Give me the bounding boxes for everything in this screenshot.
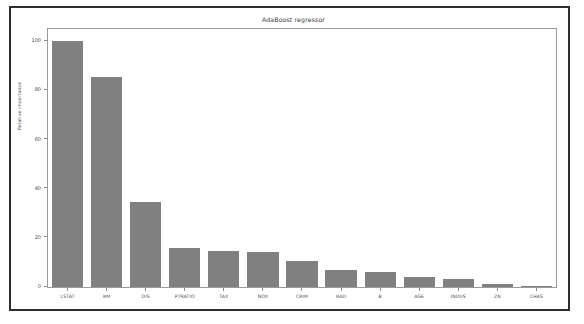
bar-slot [126, 29, 165, 287]
x-tick-RAD: RAD [322, 288, 361, 299]
x-tick-mark [184, 288, 185, 291]
y-axis-ticks: 020406080100 [0, 28, 47, 288]
bar-slot [439, 29, 478, 287]
x-tick-ZN: ZN [478, 288, 517, 299]
y-tick-label: 20 [35, 234, 44, 240]
x-tick-label: CRIM [282, 294, 321, 299]
x-tick-mark [67, 288, 68, 291]
bar-slot [517, 29, 556, 287]
x-tick-label: RM [87, 294, 126, 299]
x-tick-DIS: DIS [126, 288, 165, 299]
bar[interactable] [169, 248, 200, 287]
bar[interactable] [482, 284, 513, 287]
x-tick-mark [301, 288, 302, 291]
x-tick-INDUS: INDUS [439, 288, 478, 299]
x-tick-label: B [361, 294, 400, 299]
x-tick-mark [536, 288, 537, 291]
figure-window: AdaBoost regressor Relative importance 0… [0, 0, 584, 324]
bar-slot [204, 29, 243, 287]
x-tick-AGE: AGE [400, 288, 439, 299]
bar-slot [400, 29, 439, 287]
x-tick-label: LSTAT [48, 294, 87, 299]
x-tick-LSTAT: LSTAT [48, 288, 87, 299]
bar[interactable] [443, 279, 474, 287]
bars-layer [48, 29, 556, 287]
x-tick-RM: RM [87, 288, 126, 299]
bar[interactable] [521, 286, 552, 287]
bar[interactable] [404, 277, 435, 287]
x-tick-label: PTRATIO [165, 294, 204, 299]
x-tick-label: TAX [204, 294, 243, 299]
x-tick-CHAS: CHAS [517, 288, 556, 299]
bar[interactable] [208, 251, 239, 287]
x-tick-label: NOX [243, 294, 282, 299]
bar[interactable] [286, 261, 317, 287]
x-tick-mark [145, 288, 146, 291]
bar[interactable] [325, 270, 356, 287]
x-tick-PTRATIO: PTRATIO [165, 288, 204, 299]
x-axis-ticks: LSTATRMDISPTRATIOTAXNOXCRIMRADBAGEINDUSZ… [48, 288, 556, 306]
bar-slot [165, 29, 204, 287]
x-tick-label: DIS [126, 294, 165, 299]
x-tick-NOX: NOX [243, 288, 282, 299]
bar-slot [87, 29, 126, 287]
bar[interactable] [365, 272, 396, 287]
x-tick-label: ZN [478, 294, 517, 299]
bar[interactable] [130, 202, 161, 287]
x-tick-TAX: TAX [204, 288, 243, 299]
x-tick-label: INDUS [439, 294, 478, 299]
bar-slot [361, 29, 400, 287]
y-tick-label: 60 [35, 136, 44, 142]
x-tick-mark [497, 288, 498, 291]
x-tick-mark [341, 288, 342, 291]
bar[interactable] [247, 252, 278, 287]
x-tick-mark [262, 288, 263, 291]
x-tick-label: RAD [322, 294, 361, 299]
x-tick-mark [419, 288, 420, 291]
bar[interactable] [91, 77, 122, 287]
x-tick-mark [380, 288, 381, 291]
y-tick-label: 100 [31, 37, 44, 43]
x-tick-mark [106, 288, 107, 291]
bar-slot [478, 29, 517, 287]
x-tick-label: AGE [400, 294, 439, 299]
x-tick-mark [223, 288, 224, 291]
bar-slot [48, 29, 87, 287]
bar-slot [282, 29, 321, 287]
bar[interactable] [52, 41, 83, 287]
x-tick-B: B [361, 288, 400, 299]
bar-slot [322, 29, 361, 287]
x-tick-CRIM: CRIM [282, 288, 321, 299]
x-tick-label: CHAS [517, 294, 556, 299]
chart-title: AdaBoost regressor [30, 16, 557, 23]
x-tick-mark [458, 288, 459, 291]
bar-slot [243, 29, 282, 287]
y-tick-label: 40 [35, 185, 44, 191]
y-tick-label: 80 [35, 86, 44, 92]
